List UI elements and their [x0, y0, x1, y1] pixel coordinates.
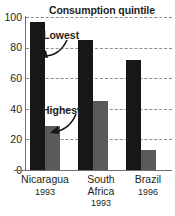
- y-tick-100: 100: [0, 12, 22, 23]
- x-label-south-africa-year: 1993: [76, 198, 126, 209]
- x-label-nicaragua-year: 1993: [7, 187, 83, 198]
- x-label-brazil: Brazil 1996: [124, 174, 172, 198]
- x-label-south-africa-name: South Africa: [76, 174, 126, 197]
- annotation-lowest-label: Lowest: [43, 29, 79, 41]
- gridline-60: [26, 78, 172, 79]
- x-label-brazil-name: Brazil: [124, 174, 172, 186]
- chart-container: Consumption quintile 100 80 60 40 20 0 L…: [0, 0, 175, 216]
- x-label-nicaragua-name: Nicaragua: [7, 174, 83, 186]
- bar-brazil-highest[interactable]: [141, 150, 156, 170]
- y-tick-60: 60: [0, 73, 22, 84]
- gridline-100: [26, 17, 172, 18]
- x-label-nicaragua: Nicaragua 1993: [7, 174, 83, 198]
- y-tick-80: 80: [0, 42, 22, 53]
- x-label-brazil-year: 1996: [124, 187, 172, 198]
- y-tick-20: 20: [0, 134, 22, 145]
- gridline-80: [26, 48, 172, 49]
- x-axis-line: [14, 170, 172, 171]
- x-label-south-africa: South Africa 1993: [76, 174, 126, 209]
- bar-brazil-lowest[interactable]: [126, 60, 141, 170]
- annotation-highest-label: Highest: [42, 104, 81, 116]
- bar-nicaragua-lowest[interactable]: [30, 22, 45, 170]
- y-tick-40: 40: [0, 104, 22, 115]
- bar-south-africa-highest[interactable]: [93, 101, 108, 170]
- bar-nicaragua-highest[interactable]: [45, 126, 60, 170]
